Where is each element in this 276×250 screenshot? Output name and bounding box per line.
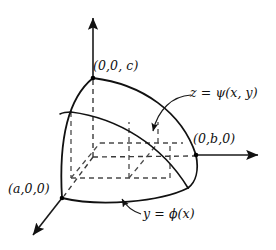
figure-canvas bbox=[0, 0, 276, 250]
curve-phi-boundary bbox=[62, 188, 188, 203]
y-axis-hidden-segment bbox=[93, 156, 194, 157]
x-axis-hidden-segment bbox=[64, 157, 93, 196]
dashed-floor-edge-left bbox=[71, 143, 100, 178]
vertex-y-intercept bbox=[194, 153, 199, 158]
math-figure: (0,0, c) (0,b,0) (a,0,0) z = ψ(x, y) y =… bbox=[0, 0, 276, 250]
vertex-z-intercept bbox=[91, 76, 96, 81]
curve-top-rim bbox=[93, 78, 196, 155]
curve-right-bulge bbox=[188, 155, 197, 188]
label-surface-equation: z = ψ(x, y) bbox=[190, 87, 258, 100]
hidden-construction-lines bbox=[71, 112, 183, 178]
label-point-x-intercept: (a,0,0) bbox=[8, 183, 50, 196]
label-point-y-intercept: (0,b,0) bbox=[193, 133, 235, 146]
curve-left-meridian bbox=[61, 78, 93, 198]
vertex-x-intercept bbox=[60, 196, 65, 201]
y-axis bbox=[93, 155, 258, 157]
psi-leader-line bbox=[153, 95, 191, 131]
label-curve-equation: y = ϕ(x) bbox=[143, 208, 195, 221]
x-axis-shaft bbox=[33, 198, 62, 235]
label-point-z-intercept: (0,0, c) bbox=[93, 60, 138, 73]
